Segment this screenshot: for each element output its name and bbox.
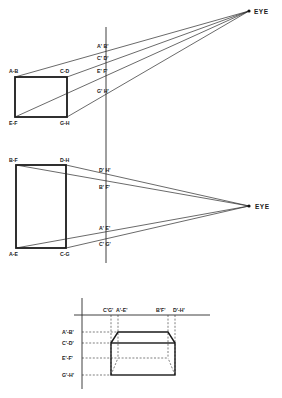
corner-label-cd: C-D: [60, 68, 69, 74]
projected-label-dh: D' H': [99, 167, 110, 173]
corner-label-ab: A-B: [9, 68, 18, 74]
eye-point-icon: [247, 9, 250, 12]
corner-label-dh: D-H: [60, 157, 69, 163]
column-label-ae: A'-E': [116, 307, 127, 313]
corner-label-cg: C-G: [60, 251, 70, 257]
projected-label-bf: B' F': [99, 184, 110, 190]
sight-line-cd: [67, 11, 249, 77]
corner-label-gh: G-H: [60, 120, 70, 126]
column-label-dh: D'-H': [173, 307, 185, 313]
box-top-face: [111, 332, 175, 343]
eye-label-top: EYE: [254, 8, 269, 15]
projected-label-cg: C' G': [99, 241, 111, 247]
projected-label-ab: A' B': [97, 43, 108, 49]
sight-line-gh: [67, 11, 249, 117]
row-label-ab: A'-B': [62, 329, 74, 335]
projected-label-cd: C' D': [97, 55, 108, 61]
hidden-edge-left: [111, 358, 118, 375]
bottom-view: C'G' A'-E' B'F' D'-H' A'-B' C'-D' E'-F' …: [62, 298, 210, 389]
projected-label-ef: E' F': [97, 68, 108, 74]
corner-label-ae: A-E: [9, 251, 18, 257]
sight-line-bf: [16, 165, 249, 206]
projected-label-gh: G' H': [97, 88, 109, 94]
box-front-face: [111, 343, 175, 375]
sight-line-ef: [15, 11, 249, 117]
sight-line-ab: [15, 11, 249, 77]
sight-line-ae: [16, 206, 249, 248]
top-view: EYE A-B C-D E-F G-H A' B' C' D' E' F' G'…: [9, 8, 269, 264]
middle-view: EYE B-F D-H A-E C-G D' H' B' F' A' E' C'…: [9, 157, 270, 257]
corner-label-ef: E-F: [9, 120, 17, 126]
sight-line-dh: [66, 165, 249, 206]
column-label-bf: B'F': [156, 307, 165, 313]
object-rectangle-plan: [16, 165, 66, 248]
hidden-edge-right: [168, 358, 175, 375]
corner-label-bf: B-F: [9, 157, 18, 163]
sight-line-cg: [66, 206, 249, 248]
perspective-diagram: EYE A-B C-D E-F G-H A' B' C' D' E' F' G'…: [0, 0, 282, 398]
eye-label-middle: EYE: [255, 203, 270, 210]
column-label-cg: C'G': [103, 307, 113, 313]
projected-label-ae: A' E': [99, 225, 110, 231]
row-label-cd: C'-D': [62, 340, 74, 346]
row-label-gh: G'-H': [62, 372, 74, 378]
eye-point-icon: [247, 204, 250, 207]
row-label-ef: E'-F': [62, 355, 73, 361]
